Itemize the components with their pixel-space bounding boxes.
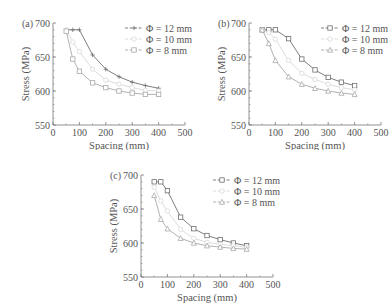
data-point-marker xyxy=(104,78,108,82)
panel-label: (c) xyxy=(110,170,121,182)
data-point-marker xyxy=(192,227,196,231)
line-chart-b: 5506006507000100200300400500Spacing (mm)… xyxy=(196,0,391,150)
x-tick-label: 0 xyxy=(139,279,144,290)
x-tick-label: 0 xyxy=(51,127,56,138)
line-chart-a: 5506006507000100200300400500Spacing (mm)… xyxy=(0,0,200,150)
y-tick-label: 700 xyxy=(231,18,246,29)
data-point-marker xyxy=(300,57,304,61)
data-point-marker xyxy=(117,89,121,93)
legend-label: Φ = 8 mm xyxy=(342,45,383,56)
y-tick-label: 650 xyxy=(231,52,246,63)
data-point-marker xyxy=(178,236,183,241)
x-tick-label: 400 xyxy=(347,127,362,138)
data-point-marker xyxy=(158,217,163,222)
data-point-marker xyxy=(165,209,169,213)
data-point-marker xyxy=(152,185,156,189)
data-point-marker xyxy=(64,29,68,33)
data-point-marker xyxy=(299,82,304,87)
legend-item: Φ = 12 mm xyxy=(125,23,192,34)
legend-label: Φ = 12 mm xyxy=(146,23,192,34)
data-point-marker xyxy=(77,28,81,32)
legend-marker xyxy=(328,37,332,41)
x-tick-label: 300 xyxy=(213,279,228,290)
data-point-marker xyxy=(300,71,304,75)
legend-item: Φ = 10 mm xyxy=(321,34,388,45)
data-point-marker xyxy=(273,37,277,41)
data-point-marker xyxy=(77,49,81,53)
data-point-marker xyxy=(313,68,317,72)
data-point-marker xyxy=(286,58,290,62)
data-point-marker xyxy=(71,28,75,32)
data-point-marker xyxy=(104,85,108,89)
x-tick-label: 0 xyxy=(247,127,252,138)
panel-label: (a) xyxy=(22,18,33,30)
data-point-marker xyxy=(178,227,182,231)
data-point-marker xyxy=(326,82,330,86)
data-point-marker xyxy=(326,75,330,79)
data-point-marker xyxy=(159,199,163,203)
data-point-marker xyxy=(267,30,271,34)
legend-item: Φ = 12 mm xyxy=(213,175,280,186)
data-point-marker xyxy=(117,75,121,79)
legend-item: Φ = 12 mm xyxy=(321,23,388,34)
y-axis-label: Stress (MPa) xyxy=(108,198,120,253)
data-point-marker xyxy=(71,57,75,61)
x-tick-label: 100 xyxy=(72,127,87,138)
legend-marker xyxy=(132,26,136,30)
data-point-marker xyxy=(152,180,156,184)
legend-item: Φ = 10 mm xyxy=(125,34,192,45)
x-tick-label: 200 xyxy=(186,279,201,290)
y-tick-label: 700 xyxy=(35,18,50,29)
data-point-marker xyxy=(218,237,222,241)
chart-panel-a: 5506006507000100200300400500Spacing (mm)… xyxy=(0,0,200,150)
data-point-marker xyxy=(266,41,271,46)
data-point-marker xyxy=(143,83,147,87)
x-axis-label: Spacing (mm) xyxy=(177,292,237,304)
legend-marker xyxy=(132,48,136,52)
legend-label: Φ = 10 mm xyxy=(234,186,280,197)
x-axis-label: Spacing (mm) xyxy=(89,140,149,150)
x-tick-label: 500 xyxy=(178,127,193,138)
legend-label: Φ = 8 mm xyxy=(146,45,187,56)
x-tick-label: 300 xyxy=(321,127,336,138)
x-tick-label: 300 xyxy=(125,127,140,138)
data-point-marker xyxy=(159,180,163,184)
legend-label: Φ = 12 mm xyxy=(342,23,388,34)
legend-label: Φ = 8 mm xyxy=(234,197,275,208)
data-point-marker xyxy=(90,67,94,71)
x-tick-label: 100 xyxy=(160,279,175,290)
x-tick-label: 200 xyxy=(294,127,309,138)
chart-panel-b: 5506006507000100200300400500Spacing (mm)… xyxy=(196,0,391,150)
data-point-marker xyxy=(156,92,160,96)
data-point-marker xyxy=(313,77,317,81)
line-chart-c: 5506006507000100200300400500Spacing (mm)… xyxy=(88,152,288,305)
y-tick-label: 600 xyxy=(35,86,50,97)
data-point-marker xyxy=(143,92,147,96)
x-tick-label: 200 xyxy=(98,127,113,138)
y-tick-label: 650 xyxy=(123,204,138,215)
y-tick-label: 650 xyxy=(35,52,50,63)
x-axis-label: Spacing (mm) xyxy=(285,140,345,150)
data-point-marker xyxy=(286,36,290,40)
legend-item: Φ = 8 mm xyxy=(125,45,187,56)
data-point-marker xyxy=(273,28,277,32)
y-tick-label: 600 xyxy=(231,86,246,97)
legend-label: Φ = 10 mm xyxy=(342,34,388,45)
data-point-marker xyxy=(165,188,169,192)
data-point-marker xyxy=(130,85,134,89)
legend-marker xyxy=(220,178,224,182)
y-tick-label: 700 xyxy=(123,170,138,181)
data-point-marker xyxy=(339,85,343,89)
legend-label: Φ = 12 mm xyxy=(234,175,280,186)
legend-item: Φ = 10 mm xyxy=(213,186,280,197)
data-point-marker xyxy=(273,58,278,63)
data-point-marker xyxy=(71,40,75,44)
x-tick-label: 400 xyxy=(151,127,166,138)
data-point-marker xyxy=(152,193,157,198)
legend-marker xyxy=(328,26,332,30)
legend-item: Φ = 8 mm xyxy=(213,197,275,208)
y-axis-label: Stress (MPa) xyxy=(20,46,32,101)
legend-item: Φ = 8 mm xyxy=(321,45,383,56)
x-tick-label: 500 xyxy=(266,279,281,290)
data-point-marker xyxy=(130,91,134,95)
